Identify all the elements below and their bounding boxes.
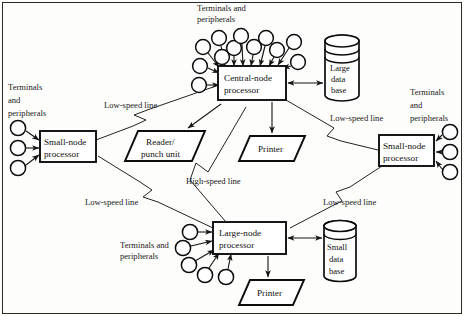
terminal-circle	[287, 35, 302, 50]
peripheral-label-left-line3: peripherals	[8, 108, 47, 118]
central-node-label-line2: processor	[224, 85, 259, 95]
central-to-reader-arrow	[188, 104, 221, 128]
terminal-circle	[10, 140, 25, 155]
link-label-low-speed-upper-left: Low-speed line	[104, 100, 157, 110]
terminal-circle	[442, 164, 457, 179]
terminal-circle	[442, 144, 457, 159]
terminal-circle	[215, 50, 230, 65]
network-diagram: Central-node processor Large data base S…	[0, 0, 464, 316]
terminal-circle	[442, 124, 457, 139]
large-db-line3: base	[331, 85, 346, 95]
large-node-label-line2: processor	[219, 240, 254, 250]
small-left-label-line2: processor	[44, 149, 79, 159]
printer-bottom-label: Printer	[257, 288, 282, 298]
link-label-low-speed-lower-right: Low-speed line	[323, 197, 376, 207]
printer-top-label: Printer	[258, 144, 283, 154]
terminal-circle	[193, 59, 208, 74]
peripheral-label-right-line2: and	[410, 100, 423, 110]
terminal-circle	[212, 31, 227, 46]
link-label-low-speed-upper-right: Low-speed line	[330, 113, 383, 123]
peripheral-label-left-line2: and	[8, 95, 21, 105]
small-data-base[interactable]: Small data base	[324, 221, 356, 282]
small-db-line1: Small	[327, 242, 348, 252]
large-db-line1: Large	[330, 63, 350, 73]
large-node-label-line1: Large-node	[219, 228, 261, 238]
peripheral-label-right-line3: peripherals	[410, 113, 449, 123]
link-small-left-to-large	[98, 156, 213, 228]
reader-label-line2: punch unit	[141, 149, 180, 159]
terminal-circle	[10, 120, 25, 135]
link-central-to-large-highspeed	[190, 107, 246, 222]
reader-label-line1: Reader/	[146, 137, 175, 147]
peripheral-label-top-line2: peripherals	[197, 14, 236, 24]
peripheral-label-bottom-line2: peripherals	[120, 251, 159, 261]
large-db-line2: data	[331, 74, 345, 84]
peripheral-label-left-line1: Terminals	[8, 82, 43, 92]
terminal-circle	[197, 267, 212, 282]
link-label-low-speed-lower-left: Low-speed line	[85, 197, 138, 207]
peripheral-label-right-line1: Terminals	[410, 87, 445, 97]
diagram-canvas: Central-node processor Large data base S…	[0, 0, 464, 316]
terminal-circle	[181, 257, 196, 272]
terminal-circle	[196, 40, 211, 55]
small-left-label-line1: Small-node	[44, 137, 86, 147]
peripheral-label-bottom-line1: Terminals and	[120, 240, 169, 250]
large-data-base[interactable]: Large data base	[325, 35, 359, 101]
small-right-terminals	[436, 124, 458, 179]
terminal-circle	[192, 78, 207, 93]
small-right-label-line2: processor	[383, 153, 418, 163]
terminal-circle	[10, 160, 25, 175]
terminal-circle	[175, 240, 190, 255]
terminal-circle	[270, 43, 285, 58]
small-left-terminals	[10, 120, 39, 175]
peripheral-label-top-line1: Terminals and	[197, 3, 246, 13]
terminal-circle	[259, 31, 274, 46]
small-db-line2: data	[329, 254, 343, 264]
small-right-label-line1: Small-node	[383, 141, 425, 151]
terminal-circle	[218, 269, 233, 284]
central-node-label-line1: Central-node	[224, 73, 272, 83]
small-db-line3: base	[329, 266, 344, 276]
terminal-circle	[182, 224, 197, 239]
terminal-circle	[234, 29, 249, 44]
terminal-circle	[291, 55, 306, 70]
link-label-high-speed: High-speed line	[186, 176, 241, 186]
